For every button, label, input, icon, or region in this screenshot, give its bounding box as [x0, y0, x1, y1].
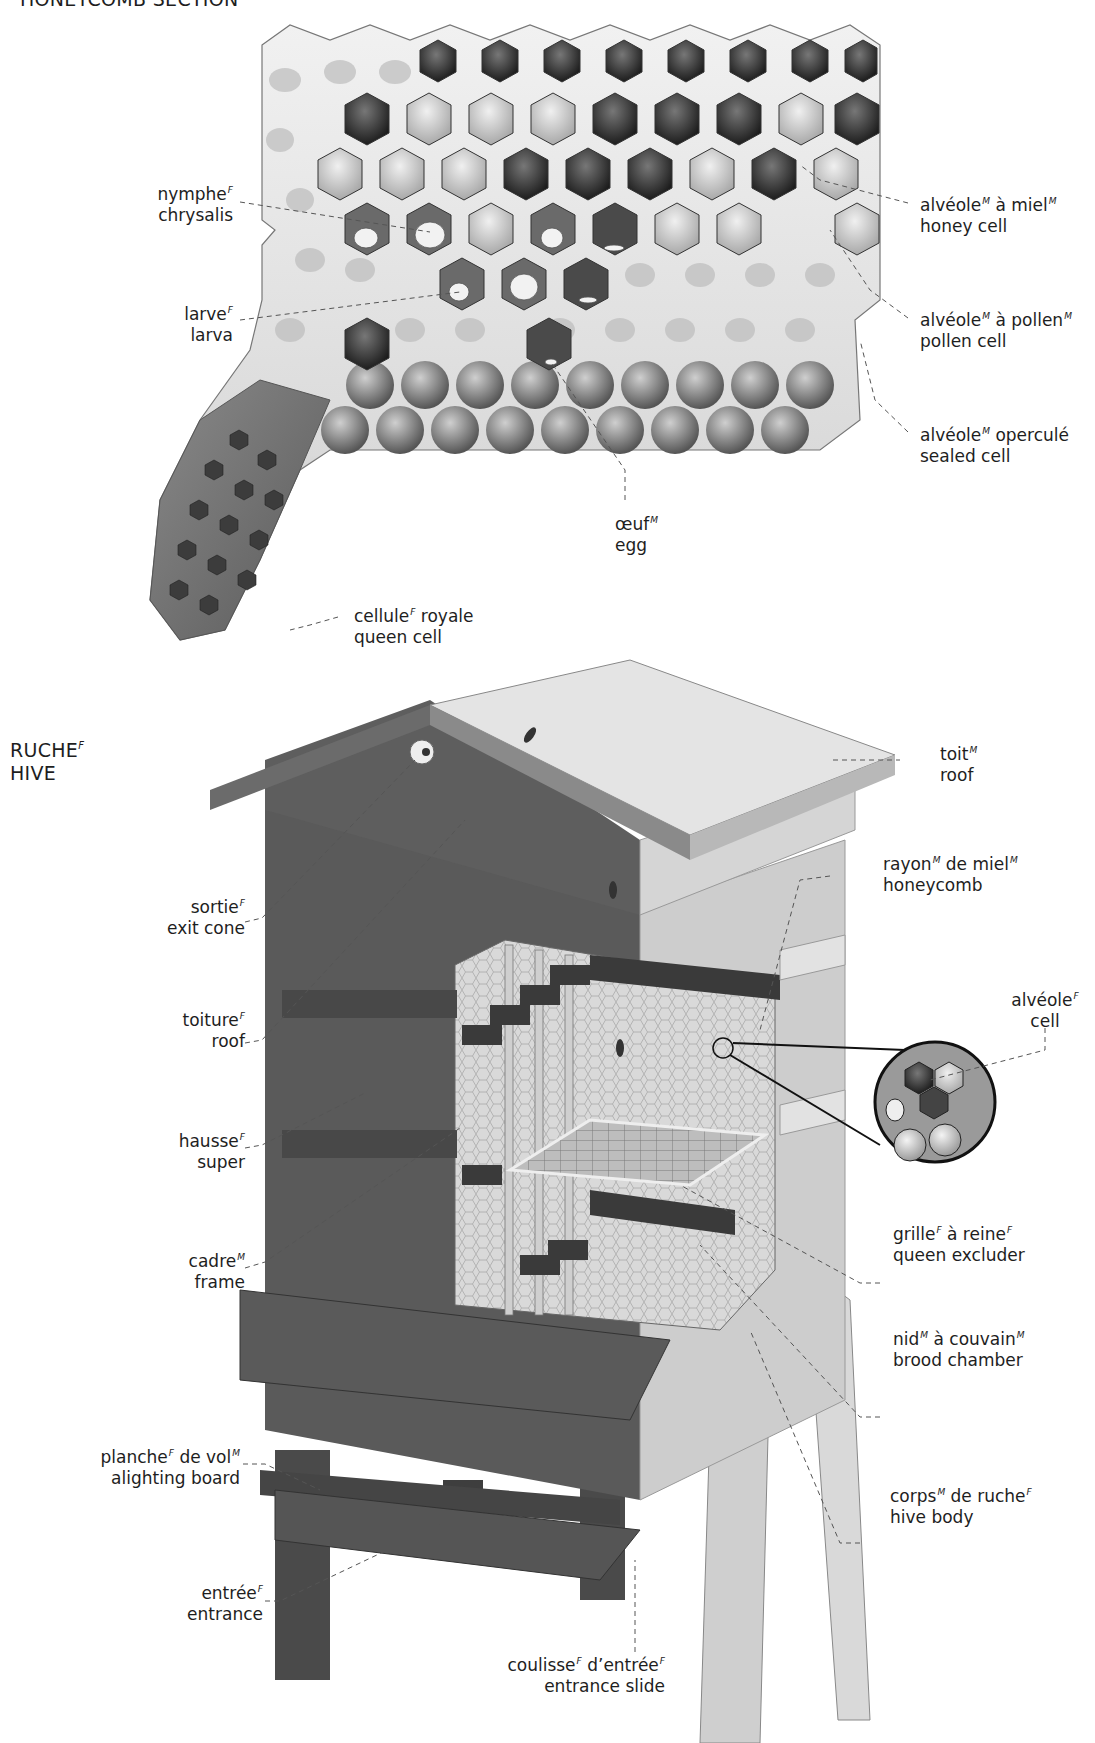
- hive-section-title: RUCHEF HIVE: [10, 734, 84, 785]
- hive-title-en: HIVE: [10, 762, 56, 784]
- label-entrance: entréeFentrance: [120, 1579, 263, 1625]
- label-egg: œufMegg: [615, 510, 658, 556]
- label-queen-cell: celluleF royalequeen cell: [354, 602, 474, 648]
- label-hive-body: corpsM de rucheFhive body: [890, 1482, 1032, 1528]
- label-entrance-slide: coulisseF d’entréeFentrance slide: [460, 1651, 665, 1697]
- hive-illustration: [210, 660, 1045, 1743]
- label-honey-cell: alvéoleM à mielMhoney cell: [920, 191, 1056, 237]
- label-exit-cone: sortieFexit cone: [120, 893, 245, 939]
- label-brood-chamber: nidM à couvainMbrood chamber: [893, 1325, 1025, 1371]
- label-chrysalis: nympheFchrysalis: [120, 180, 233, 226]
- label-larva: larveFlarva: [120, 300, 233, 346]
- label-pollen-cell: alvéoleM à pollenMpollen cell: [920, 306, 1072, 352]
- hive-title-gender: F: [78, 740, 84, 751]
- label-honeycomb: rayonM de mielMhoneycomb: [883, 850, 1018, 896]
- label-roof: toitMroof: [940, 740, 977, 786]
- label-super: hausseFsuper: [120, 1127, 245, 1173]
- honeycomb-illustration: [150, 25, 908, 640]
- hive-title-fr: RUCHE: [10, 739, 78, 761]
- label-frame: cadreMframe: [120, 1247, 245, 1293]
- label-sealed-cell: alvéoleM operculésealed cell: [920, 421, 1069, 467]
- label-alighting-board: plancheF de volMalighting board: [40, 1443, 240, 1489]
- label-queen-excluder: grilleF à reineFqueen excluder: [893, 1220, 1025, 1266]
- label-toiture: toitureFroof: [120, 1006, 245, 1052]
- honeycomb-section-title: HONEYCOMB SECTION: [20, 0, 239, 11]
- label-cell: alvéoleFcell: [1000, 986, 1090, 1032]
